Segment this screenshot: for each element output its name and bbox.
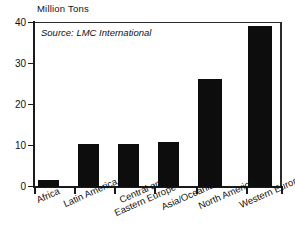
bar-western-europe: [248, 26, 272, 187]
x-tick-mark-2: [114, 188, 116, 194]
x-tick-mark-0: [34, 188, 36, 194]
bars-layer: [34, 22, 282, 187]
bar-chart-figure: Million Tons Source: LMC International 4…: [0, 0, 295, 247]
x-category-label-africa: Africa: [35, 186, 61, 205]
y-tick-label-0: 0: [0, 181, 26, 192]
y-tick-label-10: 10: [0, 140, 26, 151]
y-tick-label-20: 20: [0, 99, 26, 110]
bar-north-america: [198, 79, 222, 187]
bar-central-eastern-europe: [118, 144, 139, 187]
bar-latin-america: [78, 144, 99, 187]
y-axis-title: Million Tons: [37, 3, 89, 14]
y-tick-label-30: 30: [0, 58, 26, 69]
y-tick-label-40: 40: [0, 17, 26, 28]
y-tick-label-group: 40 30 20 10 0: [0, 0, 26, 247]
